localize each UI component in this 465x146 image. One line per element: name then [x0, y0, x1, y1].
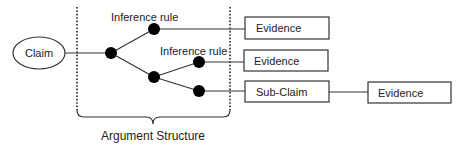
edge-subnode-to-node5 [154, 77, 199, 91]
edge-node-to-subnode [111, 53, 154, 77]
curly-brace [77, 110, 230, 124]
evidence-box-2: Evidence [244, 50, 328, 71]
evidence-label-3: Evidence [378, 87, 423, 99]
evidence-label-1: Evidence [256, 22, 301, 34]
inference-rule-node-2 [193, 56, 205, 68]
argument-structure-label: Argument Structure [101, 129, 205, 143]
evidence-box-1: Evidence [245, 17, 329, 39]
sub-claim-box: Sub-Claim [245, 81, 329, 102]
claim-node: Claim [13, 37, 65, 69]
evidence-box-3: Evidence [368, 82, 451, 103]
junction-node-mid [148, 71, 160, 83]
edge-subnode-to-rule2 [154, 62, 199, 77]
claim-label: Claim [25, 47, 53, 59]
inference-rule-label-1: Inference rule [111, 11, 178, 23]
sub-claim-label: Sub-Claim [256, 86, 307, 98]
argument-structure-diagram: Claim Inference rule Inference rule Evid… [0, 0, 465, 146]
junction-node-subclaim [193, 85, 205, 97]
inference-rule-label-2: Inference rule [160, 45, 227, 57]
evidence-label-2: Evidence [254, 55, 299, 67]
inference-rule-node-1 [148, 23, 160, 35]
edge-node-to-rule1 [111, 29, 154, 53]
junction-node-root [105, 47, 117, 59]
